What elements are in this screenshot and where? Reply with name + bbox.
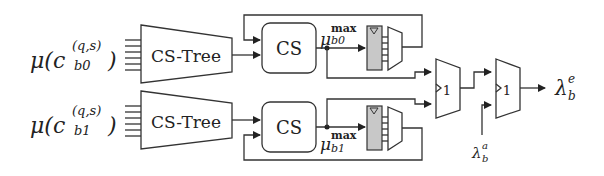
input-bus-bottom [125,106,141,136]
svg-text:b: b [482,153,488,164]
svg-text:max: max [331,129,357,142]
svg-text:b1: b1 [74,123,91,138]
mu-max-b0-label: μ max b0 [320,22,357,49]
cs-tree-bottom: CS-Tree [141,91,232,149]
svg-text:b: b [568,89,576,103]
wire-lambda-a [482,105,491,135]
svg-text:e: e [568,72,575,86]
svg-text:1: 1 [443,83,451,98]
register-top [367,26,402,70]
svg-text:): ) [107,48,117,73]
svg-text:μ(c: μ(c [30,113,65,138]
cs-block-top: CS [262,23,316,73]
svg-text:(q,s): (q,s) [72,38,101,53]
svg-text:λ: λ [554,76,568,100]
svg-text:CS-Tree: CS-Tree [151,46,221,66]
svg-text:μ: μ [320,134,331,154]
svg-text:CS: CS [276,117,302,138]
cs-tree-top: CS-Tree [141,25,232,83]
svg-text:a: a [482,140,488,151]
comparator-2: 1 [496,59,520,118]
lambda-a-label: λ a b [471,140,488,164]
input-label-b1: μ(c (q,s) b1 ) [30,103,117,138]
svg-text:b0: b0 [74,58,91,73]
cs-block-bottom: CS [262,102,316,152]
svg-text:1: 1 [503,83,511,98]
comparator-1: 1 [436,59,460,118]
svg-text:b0: b0 [331,34,345,47]
svg-text:λ: λ [471,144,482,162]
svg-text:b1: b1 [331,142,345,155]
register-bottom [367,106,402,150]
input-bus-top [125,40,141,70]
svg-text:): ) [107,113,117,138]
svg-text:μ(c: μ(c [30,48,65,73]
mu-max-b1-label: μ max b1 [320,129,357,155]
lambda-e-label: λ e b [554,72,576,103]
svg-text:(q,s): (q,s) [72,103,101,118]
svg-text:CS: CS [276,38,302,59]
svg-text:CS-Tree: CS-Tree [151,112,221,132]
diagram-canvas: μ(c (q,s) b0 ) μ(c (q,s) b1 ) CS-Tree CS… [0,0,604,176]
input-label-b0: μ(c (q,s) b0 ) [30,38,117,73]
wire-cmp1-cmp2 [460,72,491,88]
